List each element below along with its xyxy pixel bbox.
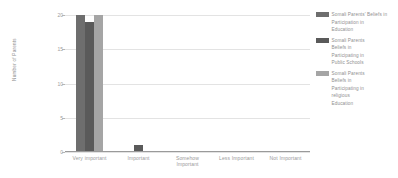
legend: Somali Parents' Beliefs in Participation… [316,11,398,110]
x-axis-line [65,151,310,152]
gridline [65,152,310,153]
bar-group [65,15,114,152]
y-axis-tick-label: 0 [33,149,63,155]
bar [85,22,94,152]
bar-chart: Number of Parents 05101520 Very importan… [0,0,398,178]
y-axis-tick-label: 15 [33,46,63,52]
x-axis-label: Very important [65,155,114,168]
y-axis-tick-mark [62,152,65,153]
bar-group [114,15,163,152]
x-axis-label: Not Important [261,155,310,168]
legend-label: Somali Parents Beliefs in Participating … [332,70,365,108]
x-axis-labels: Very importantImportantSomehowImportantL… [65,155,310,168]
plot-area: 05101520 [65,15,310,152]
y-axis-tick-label: 5 [33,115,63,121]
legend-swatch [316,71,329,76]
y-axis-tick-label: 10 [33,81,63,87]
legend-label: Somali Parents' Beliefs in Participation… [332,11,388,34]
legend-label: Somali Parents Beliefs in Participating … [332,37,365,67]
bar [76,15,85,152]
legend-item[interactable]: Somali Parents Beliefs in Participating … [316,37,398,67]
legend-swatch [316,38,329,43]
bar [94,15,103,152]
legend-swatch [316,12,329,17]
x-axis-label: SomehowImportant [163,155,212,168]
bar-groups [65,15,310,152]
legend-item[interactable]: Somali Parents Beliefs in Participating … [316,70,398,108]
x-axis-label: Less Important [212,155,261,168]
y-axis-tick-label: 20 [33,12,63,18]
x-axis-label: Important [114,155,163,168]
bar-group [163,15,212,152]
bar-group [212,15,261,152]
y-axis-title: Number of Parents [12,25,17,95]
legend-item[interactable]: Somali Parents' Beliefs in Participation… [316,11,398,34]
bar-group [261,15,310,152]
